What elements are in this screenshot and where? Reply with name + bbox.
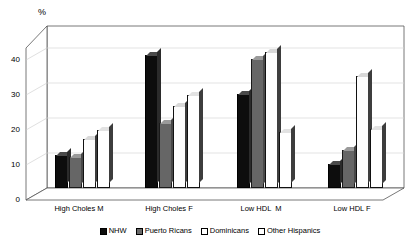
- bar-slot: [145, 48, 159, 188]
- bar-slot: [173, 48, 187, 188]
- legend-swatch-icon: [258, 228, 265, 235]
- legend-item-other-hispanics: Other Hispanics: [258, 227, 320, 235]
- y-tick-30: 30: [4, 91, 20, 99]
- legend-swatch-icon: [100, 228, 107, 235]
- x-axis-label-1: High Choles M: [47, 205, 111, 213]
- legend-item-nhw: NHW: [100, 227, 127, 235]
- legend-label: Dominicans: [210, 227, 249, 235]
- bar-slot: [159, 48, 173, 188]
- bar-dominicans: [173, 106, 186, 188]
- bar-other-hispanics: [187, 95, 200, 188]
- legend-swatch-icon: [201, 228, 208, 235]
- bar-nhw: [55, 155, 68, 188]
- bar-group: [328, 48, 384, 188]
- bar-slot: [370, 48, 384, 188]
- bar-slot: [251, 48, 265, 188]
- y-tick-0: 0: [4, 196, 20, 204]
- bar-slot: [265, 48, 279, 188]
- legend-item-dominicans: Dominicans: [201, 227, 249, 235]
- bar-group: [55, 48, 111, 188]
- bar-dominicans: [356, 76, 369, 188]
- x-axis-label-2: High Choles F: [137, 205, 201, 213]
- legend-label: Other Hispanics: [267, 227, 320, 235]
- legend-label: Puerto Ricans: [145, 227, 192, 235]
- bar-slot: [187, 48, 201, 188]
- bar-puerto-ricans: [69, 157, 82, 189]
- x-axis-label-4: Low HDL F: [320, 205, 384, 213]
- legend-swatch-icon: [136, 228, 143, 235]
- bar-slot: [97, 48, 111, 188]
- legend-label: NHW: [109, 227, 127, 235]
- bar-group: [237, 48, 293, 188]
- y-tick-40: 40: [4, 56, 20, 64]
- bar-other-hispanics: [370, 129, 383, 189]
- bar-nhw: [145, 55, 158, 188]
- y-tick-20: 20: [4, 126, 20, 134]
- bar-chart: % 40 30 20 10 0 High Choles MHigh Choles…: [0, 0, 420, 239]
- bar-slot: [83, 48, 97, 188]
- bar-dominicans: [265, 52, 278, 189]
- x-axis-label-3: Low HDL M: [229, 205, 293, 213]
- legend-item-puerto-ricans: Puerto Ricans: [136, 227, 192, 235]
- bar-puerto-ricans: [251, 59, 264, 189]
- chart-legend: NHWPuerto RicansDominicansOther Hispanic…: [0, 227, 420, 235]
- bar-group: [145, 48, 201, 188]
- y-tick-10: 10: [4, 161, 20, 169]
- bar-nhw: [328, 164, 341, 189]
- y-axis-unit-label: %: [38, 8, 46, 17]
- plot-area: [47, 48, 392, 188]
- bar-dominicans: [83, 139, 96, 188]
- bar-slot: [342, 48, 356, 188]
- bar-slot: [356, 48, 370, 188]
- bar-slot: [69, 48, 83, 188]
- bar-slot: [328, 48, 342, 188]
- bar-slot: [55, 48, 69, 188]
- bar-nhw: [237, 94, 250, 189]
- bar-other-hispanics: [97, 130, 110, 188]
- bar-slot: [237, 48, 251, 188]
- bar-puerto-ricans: [342, 150, 355, 189]
- bar-other-hispanics: [279, 132, 292, 188]
- bar-puerto-ricans: [159, 123, 172, 188]
- bar-slot: [279, 48, 293, 188]
